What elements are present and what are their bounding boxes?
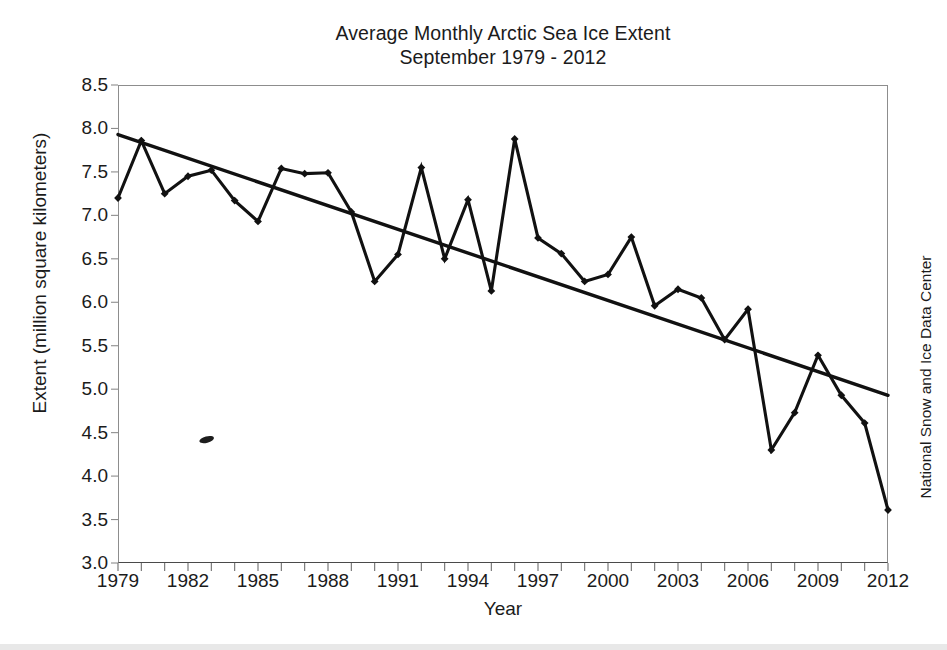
x-tick-label: 1982 bbox=[167, 570, 209, 592]
y-tick-label: 8.0 bbox=[52, 117, 108, 139]
x-tick-label: 1997 bbox=[517, 570, 559, 592]
y-tick-label: 4.5 bbox=[52, 422, 108, 444]
plot-area bbox=[118, 85, 888, 563]
x-tick-label: 2009 bbox=[797, 570, 839, 592]
page-edge bbox=[0, 644, 947, 650]
chart-title-block: Average Monthly Arctic Sea Ice Extent Se… bbox=[118, 22, 888, 70]
x-tick-label: 2003 bbox=[657, 570, 699, 592]
chart-subtitle: September 1979 - 2012 bbox=[118, 46, 888, 70]
x-tick-label: 1991 bbox=[377, 570, 419, 592]
y-tick-label: 6.0 bbox=[52, 291, 108, 313]
x-tick-label: 2006 bbox=[727, 570, 769, 592]
x-axis-tick-labels: 1979198219851988199119941997200020032006… bbox=[118, 570, 888, 596]
y-tick-label: 6.5 bbox=[52, 248, 108, 270]
x-axis-title: Year bbox=[118, 598, 888, 620]
x-tick-label: 1985 bbox=[237, 570, 279, 592]
chart-title: Average Monthly Arctic Sea Ice Extent bbox=[118, 22, 888, 46]
x-tick-label: 2000 bbox=[587, 570, 629, 592]
y-tick-label: 3.5 bbox=[52, 509, 108, 531]
x-tick-label: 2012 bbox=[867, 570, 909, 592]
x-tick-label: 1994 bbox=[447, 570, 489, 592]
x-tick-label: 1979 bbox=[97, 570, 139, 592]
y-tick-label: 5.0 bbox=[52, 378, 108, 400]
chart-figure: Average Monthly Arctic Sea Ice Extent Se… bbox=[0, 0, 947, 650]
y-tick-label: 5.5 bbox=[52, 335, 108, 357]
y-tick-label: 4.0 bbox=[52, 465, 108, 487]
x-tick-label: 1988 bbox=[307, 570, 349, 592]
y-tick-label: 8.5 bbox=[52, 74, 108, 96]
data-source-credit: National Snow and Ice Data Center bbox=[917, 207, 935, 547]
y-axis-tickmarks bbox=[111, 85, 118, 563]
y-axis-title: Extent (million square kilometers) bbox=[29, 63, 51, 483]
y-axis-tick-labels: 8.58.07.57.06.56.05.55.04.54.03.53.0 bbox=[46, 85, 108, 563]
y-tick-label: 7.0 bbox=[52, 204, 108, 226]
y-tick-label: 7.5 bbox=[52, 161, 108, 183]
